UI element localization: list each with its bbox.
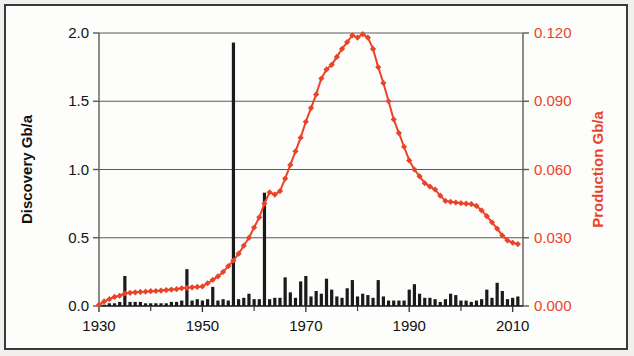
bar bbox=[144, 303, 147, 306]
marker-diamond bbox=[163, 287, 169, 293]
tick-label-x: 1970 bbox=[289, 317, 322, 334]
bar bbox=[263, 193, 266, 306]
bar bbox=[278, 298, 281, 306]
bar bbox=[309, 296, 312, 306]
bar bbox=[397, 301, 400, 306]
tick-label-right: 0.120 bbox=[534, 24, 572, 41]
bar bbox=[258, 299, 261, 306]
bar bbox=[423, 298, 426, 306]
bar bbox=[418, 294, 421, 306]
bar bbox=[253, 299, 256, 306]
marker-diamond bbox=[463, 201, 469, 207]
bar bbox=[103, 305, 106, 306]
bar bbox=[475, 301, 478, 306]
bar bbox=[211, 287, 214, 306]
bar bbox=[511, 298, 514, 306]
marker-diamond bbox=[122, 290, 128, 296]
marker-diamond bbox=[158, 287, 164, 293]
bar bbox=[237, 299, 240, 306]
tick-label-x: 2010 bbox=[496, 317, 529, 334]
bar bbox=[340, 298, 343, 306]
bar bbox=[247, 294, 250, 306]
bar bbox=[506, 299, 509, 306]
marker-diamond bbox=[396, 130, 402, 136]
bar bbox=[325, 279, 328, 306]
tick-label-right: 0.000 bbox=[534, 297, 572, 314]
marker-diamond bbox=[458, 200, 464, 206]
bar bbox=[361, 294, 364, 306]
marker-diamond bbox=[282, 176, 288, 182]
bar bbox=[428, 298, 431, 306]
marker-diamond bbox=[111, 294, 117, 300]
marker-diamond bbox=[194, 284, 200, 290]
marker-diamond bbox=[148, 288, 154, 294]
marker-diamond bbox=[380, 80, 386, 86]
bar bbox=[242, 298, 245, 306]
bar bbox=[149, 303, 152, 306]
marker-diamond bbox=[189, 284, 195, 290]
bar bbox=[408, 290, 411, 306]
discovery-production-chart: 0.00.51.01.52.00.0000.0300.0600.0900.120… bbox=[6, 6, 626, 348]
marker-diamond bbox=[313, 91, 319, 97]
chart-plot-area: 0.00.51.01.52.00.0000.0300.0600.0900.120… bbox=[6, 6, 626, 348]
bar bbox=[402, 301, 405, 306]
bar bbox=[485, 290, 488, 306]
marker-diamond bbox=[308, 105, 314, 111]
bar bbox=[273, 298, 276, 306]
bar bbox=[413, 284, 416, 306]
marker-diamond bbox=[179, 285, 185, 291]
bar bbox=[433, 299, 436, 306]
bar bbox=[387, 301, 390, 306]
bar bbox=[159, 303, 162, 306]
tick-label-right: 0.090 bbox=[534, 92, 572, 109]
tick-label-left: 2.0 bbox=[68, 24, 89, 41]
marker-diamond bbox=[287, 162, 293, 168]
bar bbox=[449, 294, 452, 306]
marker-diamond bbox=[510, 240, 516, 246]
tick-label-x: 1950 bbox=[186, 317, 219, 334]
bar bbox=[459, 301, 462, 306]
bar bbox=[268, 299, 271, 306]
marker-diamond bbox=[173, 286, 179, 292]
marker-diamond bbox=[168, 287, 174, 293]
bar bbox=[490, 298, 493, 306]
bar-series-discovery bbox=[97, 43, 519, 306]
marker-diamond bbox=[153, 288, 159, 294]
marker-diamond bbox=[303, 119, 309, 125]
bar bbox=[382, 296, 385, 306]
chart-figure: 0.00.51.01.52.00.0000.0300.0600.0900.120… bbox=[4, 4, 628, 350]
bar bbox=[221, 299, 224, 306]
tick-label-x: 1930 bbox=[82, 317, 115, 334]
bar bbox=[516, 296, 519, 306]
marker-diamond bbox=[184, 285, 190, 291]
marker-diamond bbox=[142, 289, 148, 295]
bar bbox=[330, 290, 333, 306]
bar bbox=[377, 280, 380, 306]
bar bbox=[134, 302, 137, 306]
bar bbox=[315, 291, 318, 306]
marker-diamond bbox=[117, 293, 123, 299]
bar bbox=[175, 302, 178, 306]
marker-diamond bbox=[391, 116, 397, 122]
bar bbox=[154, 303, 157, 306]
bar bbox=[496, 283, 499, 306]
bar bbox=[351, 280, 354, 306]
bar bbox=[356, 296, 359, 306]
bar bbox=[304, 276, 307, 306]
bar bbox=[289, 292, 292, 306]
axis-title-left: Discovery Gb/a bbox=[18, 114, 35, 224]
marker-diamond bbox=[261, 201, 267, 207]
marker-diamond bbox=[401, 144, 407, 150]
tick-label-left: 0.5 bbox=[68, 229, 89, 246]
bar bbox=[299, 281, 302, 306]
bar bbox=[232, 43, 235, 306]
bar bbox=[465, 301, 468, 306]
tick-label-right: 0.030 bbox=[534, 229, 572, 246]
bar bbox=[227, 301, 230, 306]
bar bbox=[170, 302, 173, 306]
bar bbox=[392, 301, 395, 306]
marker-diamond bbox=[106, 296, 112, 302]
marker-diamond bbox=[298, 135, 304, 141]
marker-diamond bbox=[127, 290, 133, 296]
marker-diamond bbox=[515, 241, 521, 247]
